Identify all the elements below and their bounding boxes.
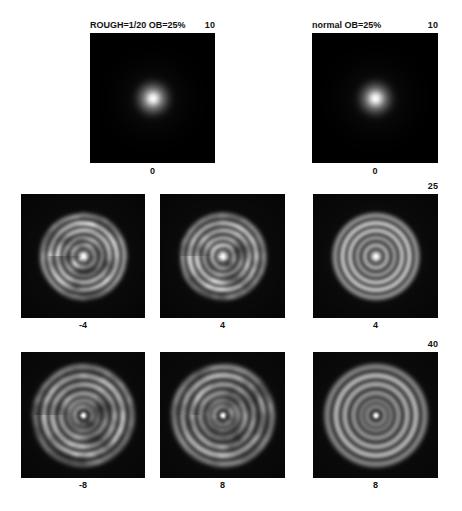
psf-image-canvas	[90, 33, 215, 163]
caption-r2c2: 4	[160, 320, 285, 331]
title-left-condition: ROUGH=1/20 OB=25%	[90, 20, 186, 31]
caption-r3c1: -8	[21, 480, 145, 491]
scale-label-row1-left: 10	[178, 20, 215, 31]
psf-image-canvas	[21, 352, 145, 478]
psf-panel-normal-defocus-plus8	[313, 352, 438, 478]
psf-panel-rough-defocus-minus8	[21, 352, 145, 478]
scale-label-row1-right: 10	[401, 20, 438, 31]
psf-image-canvas	[21, 194, 145, 318]
psf-panel-rough-defocus-plus8	[160, 352, 285, 478]
psf-image-canvas	[312, 33, 438, 163]
caption-r2c1: -4	[21, 320, 145, 331]
psf-panel-normal-defocus-0	[312, 33, 438, 163]
caption-r3c3: 8	[313, 480, 438, 491]
scale-label-row3: 40	[401, 339, 438, 350]
psf-image-canvas	[160, 194, 285, 318]
psf-panel-normal-defocus-plus4	[313, 194, 438, 318]
scale-label-row2: 25	[401, 181, 438, 192]
psf-panel-rough-defocus-0	[90, 33, 215, 163]
psf-figure: ROUGH=1/20 OB=25% 10 normal OB=25% 10 0 …	[0, 0, 462, 511]
caption-r2c3: 4	[313, 320, 438, 331]
caption-r1c1: 0	[90, 166, 215, 177]
psf-panel-rough-defocus-plus4	[160, 194, 285, 318]
psf-image-canvas	[313, 352, 438, 478]
title-right-condition: normal OB=25%	[312, 20, 381, 31]
caption-r1c3: 0	[312, 166, 438, 177]
caption-r3c2: 8	[160, 480, 285, 491]
psf-panel-rough-defocus-minus4	[21, 194, 145, 318]
psf-image-canvas	[160, 352, 285, 478]
psf-image-canvas	[313, 194, 438, 318]
